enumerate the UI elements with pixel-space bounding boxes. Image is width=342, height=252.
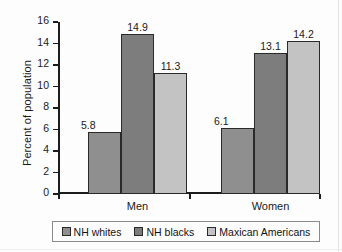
bar-value-label: 14.9: [127, 21, 147, 33]
y-axis-tick: 14: [53, 43, 58, 45]
y-axis-tick-label: 14: [37, 36, 49, 48]
bar: 14.9: [121, 34, 154, 194]
x-axis-group-label: Men: [88, 200, 187, 212]
legend-label: Maxican Americans: [219, 226, 310, 238]
y-axis-tick: 12: [53, 64, 58, 66]
bar-value-label: 14.2: [293, 28, 313, 40]
y-axis-tick: 8: [53, 107, 58, 109]
y-axis-tick-label: 16: [37, 14, 49, 26]
chart-figure: Percent of population 0246810121416 5.81…: [0, 0, 342, 252]
scan-artifact-bottom: [0, 249, 342, 250]
bar: 13.1: [254, 53, 287, 194]
y-axis-tick-label: 2: [43, 165, 49, 177]
x-axis-group-label: Women: [221, 200, 320, 212]
bar-value-label: 6.1: [214, 115, 229, 127]
bar-value-label: 5.8: [81, 119, 96, 131]
y-axis-tick-label: 0: [43, 186, 49, 198]
y-axis-tick: 6: [53, 129, 58, 131]
bar: 5.8: [88, 132, 121, 194]
y-axis-line: [58, 22, 60, 194]
legend-label: NH whites: [74, 226, 122, 238]
legend-label: NH blacks: [146, 226, 194, 238]
plot-area: 0246810121416 5.814.911.36.113.114.2 Men…: [58, 22, 320, 194]
bar: 6.1: [221, 128, 254, 194]
legend-item: Maxican Americans: [207, 226, 310, 238]
y-axis-title: Percent of population: [21, 33, 33, 193]
y-axis-tick: 2: [53, 172, 58, 174]
chart-legend: NH whitesNH blacksMaxican Americans: [52, 221, 320, 242]
bar: 11.3: [154, 73, 187, 194]
bar: 14.2: [287, 41, 320, 194]
x-axis-tick: [319, 194, 321, 199]
y-axis-tick-label: 4: [43, 143, 49, 155]
y-axis-tick-label: 12: [37, 57, 49, 69]
legend-swatch: [134, 227, 143, 236]
y-axis-tick: 10: [53, 86, 58, 88]
scan-artifact-right: [338, 0, 339, 252]
y-axis-tick-label: 10: [37, 79, 49, 91]
legend-item: NH whites: [62, 226, 122, 238]
x-axis-tick: [189, 194, 191, 199]
legend-item: NH blacks: [134, 226, 194, 238]
y-axis-tick-label: 6: [43, 122, 49, 134]
y-axis-tick-label: 8: [43, 100, 49, 112]
x-axis-tick: [58, 194, 60, 199]
bar-value-label: 11.3: [161, 60, 181, 72]
legend-swatch: [207, 227, 216, 236]
bar-value-label: 13.1: [260, 40, 280, 52]
y-axis-tick: 4: [53, 150, 58, 152]
legend-swatch: [62, 227, 71, 236]
y-axis-tick: 16: [53, 21, 58, 23]
